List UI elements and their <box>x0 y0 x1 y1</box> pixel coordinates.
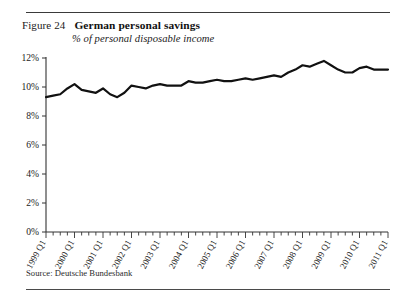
bottom-rule <box>26 289 390 290</box>
y-tick-label: 10% <box>21 81 39 92</box>
source-note: Source: Deutsche Bundesbank <box>26 268 132 278</box>
x-tick-label: 2010 Q1 <box>338 238 362 270</box>
x-tick-label: 2008 Q1 <box>281 238 305 270</box>
x-tick-label: 2006 Q1 <box>224 238 248 270</box>
y-tick-label: 6% <box>26 139 39 150</box>
x-tick-label: 2004 Q1 <box>167 238 191 270</box>
y-tick-label: 2% <box>26 197 39 208</box>
x-tick-label: 2001 Q1 <box>81 238 105 270</box>
x-tick-label: 2000 Q1 <box>53 238 77 270</box>
y-tick-label: 4% <box>26 168 39 179</box>
y-tick-label: 12% <box>21 52 39 63</box>
line-chart-svg: 0%2%4%6%8%10%12%1999 Q12000 Q12001 Q1200… <box>0 0 409 302</box>
y-tick-label: 8% <box>26 110 39 121</box>
y-tick-label: 0% <box>26 226 39 237</box>
x-tick-label: 2005 Q1 <box>195 238 219 270</box>
x-tick-label: 2002 Q1 <box>110 238 134 270</box>
x-tick-label: 2011 Q1 <box>366 238 389 270</box>
x-tick-label: 2009 Q1 <box>309 238 333 270</box>
figure-panel: Figure 24German personal savings % of pe… <box>0 0 409 302</box>
x-tick-label: 1999 Q1 <box>24 238 48 270</box>
x-tick-label: 2007 Q1 <box>252 238 276 270</box>
chart-area: 0%2%4%6%8%10%12%1999 Q12000 Q12001 Q1200… <box>0 0 409 302</box>
data-series-line <box>46 61 388 97</box>
x-tick-label: 2003 Q1 <box>138 238 162 270</box>
